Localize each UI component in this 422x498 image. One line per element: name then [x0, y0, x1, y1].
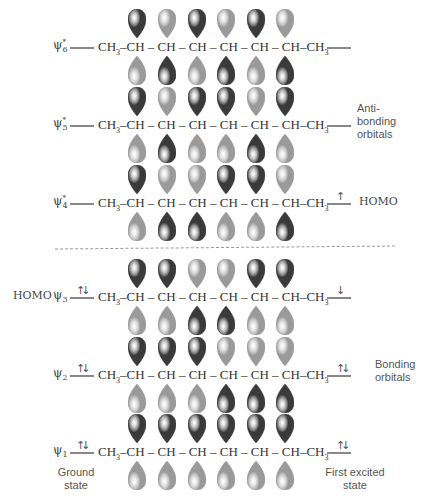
p-orbital-lobe-top — [276, 165, 294, 195]
first-excited-state-caption: First excited state — [310, 466, 400, 492]
p-orbital-lobe-bottom — [188, 211, 206, 241]
bonding-label: Bonding orbitals — [375, 358, 415, 384]
antibonding-label: Anti- bonding orbitals — [357, 102, 396, 141]
p-orbital-lobe-bottom — [188, 133, 206, 163]
p-orbital-lobe-bottom — [188, 305, 206, 335]
p-orbital-lobe-bottom — [276, 211, 294, 241]
p-orbital-lobe-top — [276, 9, 294, 39]
ground-level-psi3 — [70, 297, 94, 299]
carbon-chain-psi1: CH3–CH – CH – CH – CH – CH – CH–CH3 — [98, 444, 328, 462]
p-orbital-lobe-top — [158, 9, 176, 39]
p-orbital-lobe-bottom — [217, 133, 235, 163]
p-orbital-lobe-bottom — [217, 211, 235, 241]
excited-electrons-psi3: ↓ — [336, 286, 341, 296]
first-excited-line2: state — [310, 479, 400, 492]
p-orbital-lobe-top — [188, 337, 206, 367]
p-orbital-lobe-top — [158, 259, 176, 289]
excited-electrons-psi2: ↑↓ — [336, 364, 346, 374]
p-orbital-lobe-bottom — [217, 305, 235, 335]
p-orbital-lobe-bottom — [276, 305, 294, 335]
p-orbital-lobe-top — [217, 337, 235, 367]
p-orbital-lobe-top — [188, 9, 206, 39]
p-orbital-lobe-top — [128, 9, 146, 39]
first-excited-line1: First excited — [310, 466, 400, 479]
p-orbital-lobe-bottom — [276, 460, 294, 490]
p-orbital-lobe-top — [247, 259, 265, 289]
orbital-label-psi1: ψ1 — [53, 443, 68, 459]
p-orbital-lobe-bottom — [158, 460, 176, 490]
bonding-label-line2: orbitals — [375, 371, 415, 384]
p-orbital-lobe-top — [128, 259, 146, 289]
p-orbital-lobe-bottom — [128, 133, 146, 163]
p-orbital-lobe-bottom — [217, 55, 235, 85]
p-orbital-lobe-top — [128, 337, 146, 367]
ground-level-psi5 — [70, 125, 94, 127]
p-orbital-lobe-top — [276, 259, 294, 289]
p-orbital-lobe-bottom — [247, 305, 265, 335]
ground-level-psi4 — [70, 203, 94, 205]
p-orbital-lobe-top — [158, 87, 176, 117]
p-orbital-lobe-bottom — [188, 55, 206, 85]
ground-state-caption: Ground state — [46, 466, 106, 492]
excited-electrons-psi4: ↑ — [336, 192, 341, 202]
excited-level-psi4 — [327, 203, 351, 205]
excited-level-psi1 — [327, 452, 351, 454]
ground-level-psi2 — [70, 375, 94, 377]
p-orbital-lobe-top — [188, 87, 206, 117]
p-orbital-lobe-bottom — [247, 55, 265, 85]
p-orbital-lobe-top — [217, 259, 235, 289]
ground-electrons-psi2: ↑↓ — [76, 364, 86, 374]
excited-level-psi6 — [327, 47, 351, 49]
p-orbital-lobe-top — [128, 414, 146, 444]
p-orbital-lobe-top — [188, 165, 206, 195]
p-orbital-lobe-bottom — [276, 383, 294, 413]
orbital-label-psi3: ψ3 — [53, 288, 68, 304]
antibonding-label-line1: Anti- — [357, 102, 396, 115]
excited-level-psi3 — [327, 297, 351, 299]
carbon-chain-psi3: CH3–CH – CH – CH – CH – CH – CH–CH3 — [98, 289, 328, 307]
orbital-label-psi4: ψ4* — [53, 194, 66, 210]
homo-label-ground: HOMO — [13, 289, 52, 302]
p-orbital-lobe-bottom — [247, 383, 265, 413]
p-orbital-lobe-bottom — [276, 133, 294, 163]
excited-level-psi5 — [327, 125, 351, 127]
antibonding-label-line3: orbitals — [357, 128, 396, 141]
p-orbital-lobe-top — [247, 165, 265, 195]
p-orbital-lobe-top — [217, 87, 235, 117]
carbon-chain-psi6: CH3–CH – CH – CH – CH – CH – CH–CH3 — [98, 39, 328, 57]
p-orbital-lobe-bottom — [128, 383, 146, 413]
p-orbital-lobe-top — [188, 259, 206, 289]
ground-state-line2: state — [46, 479, 106, 492]
p-orbital-lobe-top — [276, 414, 294, 444]
p-orbital-lobe-bottom — [188, 383, 206, 413]
carbon-chain-psi2: CH3–CH – CH – CH – CH – CH – CH–CH3 — [98, 367, 328, 385]
p-orbital-lobe-bottom — [128, 211, 146, 241]
p-orbital-lobe-top — [158, 414, 176, 444]
p-orbital-lobe-top — [247, 337, 265, 367]
p-orbital-lobe-bottom — [158, 383, 176, 413]
orbital-label-psi6: ψ6* — [53, 38, 66, 54]
orbital-label-psi5: ψ5* — [53, 116, 66, 132]
p-orbital-lobe-bottom — [217, 383, 235, 413]
p-orbital-lobe-top — [217, 165, 235, 195]
p-orbital-lobe-top — [158, 337, 176, 367]
p-orbital-lobe-bottom — [247, 133, 265, 163]
carbon-chain-psi5: CH3–CH – CH – CH – CH – CH – CH–CH3 — [98, 117, 328, 135]
p-orbital-lobe-bottom — [247, 211, 265, 241]
p-orbital-lobe-top — [276, 87, 294, 117]
p-orbital-lobe-bottom — [128, 460, 146, 490]
p-orbital-lobe-top — [128, 165, 146, 195]
p-orbital-lobe-bottom — [188, 460, 206, 490]
p-orbital-lobe-top — [128, 87, 146, 117]
p-orbital-lobe-bottom — [158, 305, 176, 335]
homo-lumo-divider — [55, 246, 395, 250]
p-orbital-lobe-bottom — [276, 55, 294, 85]
p-orbital-lobe-top — [158, 165, 176, 195]
excited-level-psi2 — [327, 375, 351, 377]
orbital-label-psi2: ψ2 — [53, 366, 68, 382]
p-orbital-lobe-bottom — [158, 55, 176, 85]
p-orbital-lobe-top — [247, 414, 265, 444]
antibonding-label-line2: bonding — [357, 115, 396, 128]
carbon-chain-psi4: CH3–CH – CH – CH – CH – CH – CH–CH3 — [98, 195, 328, 213]
excited-electrons-psi1: ↑↓ — [336, 441, 346, 451]
